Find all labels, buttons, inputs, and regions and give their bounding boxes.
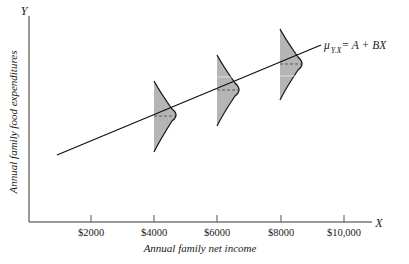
- regression-line: [57, 45, 321, 155]
- regression-diagram: $2000 $4000 $6000 $8000 $10,000 Y X Annu…: [0, 0, 409, 264]
- x-tick-label: $2000: [78, 227, 104, 238]
- y-axis-symbol: Y: [21, 4, 29, 18]
- x-tick-label: $6000: [204, 227, 230, 238]
- distribution-8000: [280, 29, 302, 100]
- distribution-4000: [154, 81, 176, 152]
- equation-label: μY.X= A + BX: [323, 39, 387, 55]
- x-axis-title: Annual family net income: [143, 242, 257, 254]
- x-tick-label: $8000: [268, 227, 294, 238]
- x-axis-symbol: X: [374, 216, 383, 230]
- y-axis-title: Annual family food expenditures: [7, 51, 19, 195]
- x-tick-label: $10,000: [327, 227, 361, 238]
- x-ticks: [91, 215, 344, 222]
- x-tick-label: $4000: [141, 227, 167, 238]
- distribution-6000: [217, 55, 239, 126]
